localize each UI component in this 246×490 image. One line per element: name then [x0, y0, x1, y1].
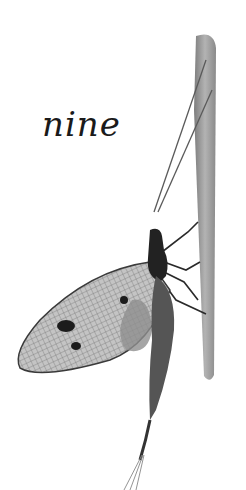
wing-spot [120, 296, 128, 304]
tail-filaments [124, 455, 144, 490]
mayfly-illustration [0, 0, 246, 490]
wing-spot [57, 320, 75, 332]
wing-spot [71, 342, 81, 350]
wing [18, 262, 170, 373]
